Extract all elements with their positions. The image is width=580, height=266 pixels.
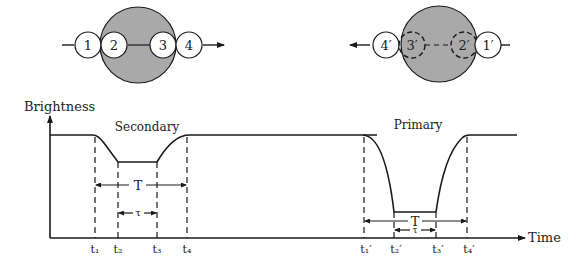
position-label: 2	[110, 38, 118, 53]
primary-eclipse-orbit: 4′ 3′ 2′ 1′	[350, 6, 510, 82]
tick-t2: t₂	[114, 243, 123, 256]
tick-t3: t₃	[153, 243, 162, 256]
brightness-curve-secondary	[50, 135, 377, 162]
position-label: 4′	[380, 38, 391, 53]
secondary-tick-labels: t₁ t₂ t₃ t₄	[91, 243, 192, 256]
secondary-T-interval: T	[96, 178, 186, 193]
position-label: 3	[159, 38, 167, 53]
position-label: 1′	[482, 38, 493, 53]
tick-t4-prime: t₄′	[463, 243, 475, 256]
primary-eclipse-label: Primary	[394, 118, 443, 132]
tick-t4: t₄	[183, 243, 192, 256]
position-label: 3′	[406, 38, 417, 53]
y-axis-label: Brightness	[24, 99, 95, 114]
primary-tick-labels: t₁′ t₂′ t₃′ t₄′	[360, 243, 475, 256]
brightness-curve-primary	[363, 135, 517, 212]
tau-label: τ	[135, 207, 141, 218]
light-curve: Brightness Time Secondary Primary T	[24, 99, 561, 256]
position-label: 4	[185, 38, 193, 53]
eclipsing-binary-diagram: 1 2 3 4 4′ 3′ 2′ 1′ Brightness Time Seco…	[0, 0, 580, 266]
tick-t1: t₁	[91, 243, 100, 256]
tick-t3-prime: t₃′	[432, 243, 444, 256]
position-label: 1	[84, 38, 92, 53]
tick-t2-prime: t₂′	[390, 243, 402, 256]
secondary-tau-interval: τ	[119, 207, 156, 218]
tau-label: τ	[413, 225, 418, 235]
secondary-eclipse-orbit: 1 2 3 4	[62, 7, 224, 83]
tick-t1-prime: t₁′	[360, 243, 372, 256]
position-label: 2′	[458, 38, 469, 53]
secondary-eclipse-label: Secondary	[115, 120, 180, 134]
T-label: T	[134, 178, 143, 193]
primary-tau-interval: τ	[395, 225, 435, 235]
x-axis-label: Time	[528, 230, 561, 245]
